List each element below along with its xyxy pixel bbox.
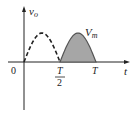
dashed-half-cycle xyxy=(24,33,60,62)
y-axis-arrow-icon xyxy=(22,6,26,12)
x-axis-arrow-icon xyxy=(124,60,130,64)
peak-label: Vm xyxy=(85,26,98,40)
origin-label: 0 xyxy=(11,65,16,76)
y-axis-label: vo xyxy=(29,5,38,19)
half-period-denominator: 2 xyxy=(57,77,62,88)
waveform-diagram: vo Vm 0 T 2 T t xyxy=(0,0,136,124)
period-label: T xyxy=(92,65,99,76)
half-period-numerator: T xyxy=(57,65,64,76)
x-axis-label: t xyxy=(124,65,128,77)
